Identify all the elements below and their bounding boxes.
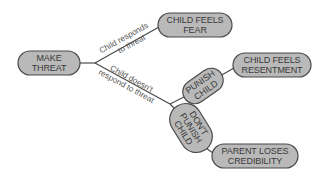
node-parent-loses-credibility: PARENT LOSES CREDIBILITY [212,144,298,168]
node-make-threat-line1: MAKE [36,53,61,63]
node-child-feels-resentment: CHILD FEELS RESENTMENT [233,53,311,77]
node-parent-loses-credibility-line2: CREDIBILITY [228,156,283,166]
edge-label-doesnt-respond: Child doesn't respond to threat [97,60,161,106]
node-child-feels-fear-line2: FEAR [183,25,207,35]
node-child-feels-resentment-line1: CHILD FEELS [244,55,301,65]
node-punish-child: PUNISH CHILD [178,64,228,109]
decision-diagram: Child responds to threat Child doesn't r… [0,0,325,180]
node-child-feels-fear-line1: CHILD FEELS [167,15,224,25]
node-child-feels-fear: CHILD FEELS FEAR [158,13,232,37]
node-make-threat: MAKE THREAT [18,51,80,75]
node-make-threat-line2: THREAT [32,63,67,73]
node-child-feels-resentment-line2: RESENTMENT [241,65,303,75]
node-parent-loses-credibility-line1: PARENT LOSES [222,146,289,156]
